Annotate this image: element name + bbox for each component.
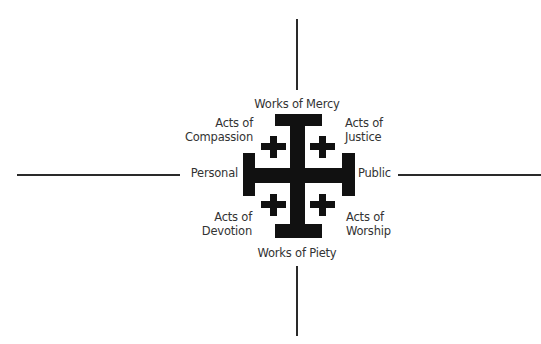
label-public: Public bbox=[358, 166, 391, 180]
label-acts-of-devotion: Acts of Devotion bbox=[162, 210, 252, 238]
label-works-of-piety: Works of Piety bbox=[247, 246, 347, 260]
label-personal: Personal bbox=[168, 166, 238, 180]
label-acts-of-justice: Acts of Justice bbox=[345, 116, 383, 144]
axis-line-top bbox=[296, 19, 298, 90]
axis-line-bottom bbox=[296, 266, 298, 336]
cross-horizontal-arm bbox=[243, 168, 355, 183]
axis-line-left bbox=[17, 174, 180, 176]
label-acts-of-worship: Acts of Worship bbox=[346, 210, 391, 238]
cross-bottom-bar bbox=[275, 224, 322, 238]
label-works-of-mercy: Works of Mercy bbox=[247, 97, 347, 111]
cross-left-bar bbox=[243, 153, 255, 196]
cross-right-bar bbox=[342, 153, 355, 196]
axis-line-right bbox=[398, 174, 541, 176]
label-acts-of-compassion: Acts of Compassion bbox=[163, 116, 253, 144]
diagram-canvas: Works of Mercy Works of Piety Personal P… bbox=[0, 0, 541, 344]
